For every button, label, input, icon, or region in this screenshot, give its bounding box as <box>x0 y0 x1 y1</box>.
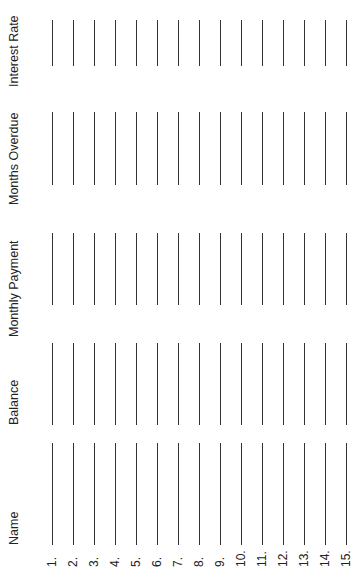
balance-blank-line[interactable] <box>220 343 221 425</box>
name-blank-line[interactable] <box>241 443 242 545</box>
name-blank-line[interactable] <box>178 443 179 545</box>
form-row: 9. <box>220 0 241 573</box>
monthly-payment-blank-line[interactable] <box>346 233 347 305</box>
form-row: 12. <box>283 0 304 573</box>
monthly-payment-blank-line[interactable] <box>73 233 74 305</box>
name-blank-line[interactable] <box>304 443 305 545</box>
balance-blank-line[interactable] <box>241 343 242 425</box>
balance-blank-line[interactable] <box>325 343 326 425</box>
name-blank-line[interactable] <box>283 443 284 545</box>
months-overdue-blank-line[interactable] <box>325 112 326 185</box>
months-overdue-blank-line[interactable] <box>199 112 200 185</box>
form-row: 2. <box>73 0 94 573</box>
name-blank-line[interactable] <box>94 443 95 545</box>
balance-blank-line[interactable] <box>136 343 137 425</box>
form-row: 15. <box>346 0 355 573</box>
name-blank-line[interactable] <box>115 443 116 545</box>
header-monthly-payment: Monthly Payment <box>7 240 21 337</box>
row-number: 12. <box>276 545 290 567</box>
interest-rate-blank-line[interactable] <box>52 20 53 66</box>
balance-blank-line[interactable] <box>283 343 284 425</box>
form-row: 8. <box>199 0 220 573</box>
months-overdue-blank-line[interactable] <box>52 112 53 185</box>
monthly-payment-blank-line[interactable] <box>52 233 53 305</box>
row-number: 11. <box>255 545 269 567</box>
balance-blank-line[interactable] <box>115 343 116 425</box>
balance-blank-line[interactable] <box>157 343 158 425</box>
balance-blank-line[interactable] <box>262 343 263 425</box>
interest-rate-blank-line[interactable] <box>241 20 242 66</box>
header-balance: Balance <box>7 380 21 425</box>
interest-rate-blank-line[interactable] <box>325 20 326 66</box>
form-row: 7. <box>178 0 199 573</box>
balance-blank-line[interactable] <box>178 343 179 425</box>
name-blank-line[interactable] <box>220 443 221 545</box>
interest-rate-blank-line[interactable] <box>178 20 179 66</box>
interest-rate-blank-line[interactable] <box>346 20 347 66</box>
interest-rate-blank-line[interactable] <box>283 20 284 66</box>
form-row: 1. <box>52 0 73 573</box>
row-number: 13. <box>297 545 311 567</box>
name-blank-line[interactable] <box>157 443 158 545</box>
form-row: 5. <box>136 0 157 573</box>
months-overdue-blank-line[interactable] <box>157 112 158 185</box>
form-row: 11. <box>262 0 283 573</box>
monthly-payment-blank-line[interactable] <box>283 233 284 305</box>
interest-rate-blank-line[interactable] <box>115 20 116 66</box>
months-overdue-blank-line[interactable] <box>304 112 305 185</box>
monthly-payment-blank-line[interactable] <box>325 233 326 305</box>
balance-blank-line[interactable] <box>304 343 305 425</box>
months-overdue-blank-line[interactable] <box>346 112 347 185</box>
months-overdue-blank-line[interactable] <box>115 112 116 185</box>
row-number: 10. <box>234 545 248 567</box>
row-number: 5. <box>129 545 143 567</box>
months-overdue-blank-line[interactable] <box>262 112 263 185</box>
row-number: 1. <box>45 545 59 567</box>
balance-blank-line[interactable] <box>52 343 53 425</box>
monthly-payment-blank-line[interactable] <box>115 233 116 305</box>
name-blank-line[interactable] <box>262 443 263 545</box>
interest-rate-blank-line[interactable] <box>136 20 137 66</box>
interest-rate-blank-line[interactable] <box>304 20 305 66</box>
months-overdue-blank-line[interactable] <box>73 112 74 185</box>
row-number: 2. <box>66 545 80 567</box>
name-blank-line[interactable] <box>136 443 137 545</box>
months-overdue-blank-line[interactable] <box>94 112 95 185</box>
balance-blank-line[interactable] <box>94 343 95 425</box>
name-blank-line[interactable] <box>73 443 74 545</box>
name-blank-line[interactable] <box>346 443 347 545</box>
interest-rate-blank-line[interactable] <box>262 20 263 66</box>
name-blank-line[interactable] <box>52 443 53 545</box>
monthly-payment-blank-line[interactable] <box>199 233 200 305</box>
interest-rate-blank-line[interactable] <box>157 20 158 66</box>
months-overdue-blank-line[interactable] <box>283 112 284 185</box>
monthly-payment-blank-line[interactable] <box>94 233 95 305</box>
balance-blank-line[interactable] <box>73 343 74 425</box>
months-overdue-blank-line[interactable] <box>220 112 221 185</box>
name-blank-line[interactable] <box>199 443 200 545</box>
months-overdue-blank-line[interactable] <box>241 112 242 185</box>
row-number: 14. <box>318 545 332 567</box>
name-blank-line[interactable] <box>325 443 326 545</box>
monthly-payment-blank-line[interactable] <box>136 233 137 305</box>
months-overdue-blank-line[interactable] <box>136 112 137 185</box>
balance-blank-line[interactable] <box>199 343 200 425</box>
interest-rate-blank-line[interactable] <box>199 20 200 66</box>
interest-rate-blank-line[interactable] <box>94 20 95 66</box>
form-row: 10. <box>241 0 262 573</box>
form-row: 14. <box>325 0 346 573</box>
interest-rate-blank-line[interactable] <box>220 20 221 66</box>
header-name: Name <box>7 512 21 545</box>
monthly-payment-blank-line[interactable] <box>304 233 305 305</box>
monthly-payment-blank-line[interactable] <box>262 233 263 305</box>
interest-rate-blank-line[interactable] <box>73 20 74 66</box>
monthly-payment-blank-line[interactable] <box>178 233 179 305</box>
row-number: 9. <box>213 545 227 567</box>
balance-blank-line[interactable] <box>346 343 347 425</box>
monthly-payment-blank-line[interactable] <box>220 233 221 305</box>
months-overdue-blank-line[interactable] <box>178 112 179 185</box>
row-number: 4. <box>108 545 122 567</box>
monthly-payment-blank-line[interactable] <box>241 233 242 305</box>
monthly-payment-blank-line[interactable] <box>157 233 158 305</box>
header-interest-rate: Interest Rate <box>7 15 21 87</box>
